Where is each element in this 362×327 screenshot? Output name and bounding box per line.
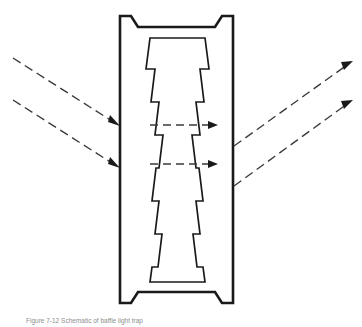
outgoing-ray-upper xyxy=(234,65,347,146)
incoming-ray-lower-arrowhead xyxy=(108,157,120,168)
figure-root: Figure 7-12 Schematic of baffle light tr… xyxy=(0,0,362,327)
incoming-rays-group xyxy=(13,58,120,168)
outgoing-ray-lower xyxy=(234,104,347,186)
incoming-ray-upper-arrowhead xyxy=(108,115,120,126)
incoming-ray-lower xyxy=(13,100,115,165)
baffle-ray-diagram xyxy=(0,0,362,327)
figure-caption: Figure 7-12 Schematic of baffle light tr… xyxy=(26,316,356,325)
incoming-ray-upper xyxy=(13,58,115,123)
outgoing-rays-group xyxy=(234,61,353,186)
